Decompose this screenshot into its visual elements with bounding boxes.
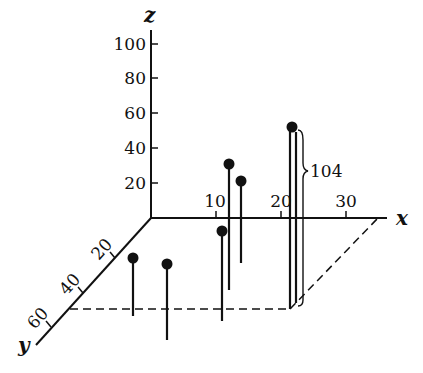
x-axis-label: x [395,206,409,230]
x-tick-30: 30 [335,191,357,211]
data-point [128,253,139,264]
data-point [224,159,235,170]
x-tick-20: 20 [270,191,292,211]
data-point [236,176,247,187]
stem-plot-3d: 100 80 60 40 20 z 10 20 30 x 20 40 60 y [0,0,423,373]
annotation-104: 104 [310,161,342,181]
data-point [162,259,173,270]
y-axis-label: y [17,333,31,357]
stems [133,127,296,340]
z-axis-label: z [143,3,156,27]
z-tick-80: 80 [124,68,146,88]
z-ticks [151,44,158,183]
z-tick-20: 20 [124,173,146,193]
x-ticks [216,211,346,218]
y-tick-40: 40 [55,269,84,298]
y-ticks [46,252,115,327]
x-tick-10: 10 [204,191,226,211]
y-tick-20: 20 [87,234,116,263]
z-tick-100: 100 [114,34,146,54]
data-point [287,122,298,133]
z-tick-60: 60 [124,103,146,123]
data-point [217,226,228,237]
y-tick-60: 60 [23,303,52,332]
z-tick-40: 40 [124,138,146,158]
